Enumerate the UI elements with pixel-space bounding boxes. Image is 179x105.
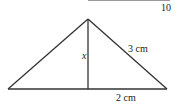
triangle-left-side (8, 19, 88, 89)
triangle-diagram (0, 0, 179, 105)
half-base-label: 2 cm (116, 93, 136, 103)
page-number: 10 (161, 3, 171, 13)
height-label: x (82, 51, 86, 61)
triangle-right-side (88, 19, 167, 89)
slant-side-label: 3 cm (128, 44, 148, 54)
